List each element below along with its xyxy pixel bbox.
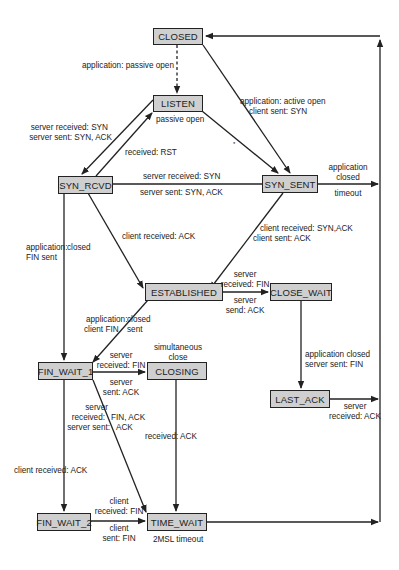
label-sent-ack: sent: ACK — [96, 388, 146, 398]
label-timeout: timeout — [322, 189, 374, 199]
state-syn-sent: SYN_SENT — [262, 175, 318, 193]
label-closed-2: closed — [67, 243, 91, 253]
label-send-ack: send: ACK — [220, 306, 270, 316]
label-server-sent: server sent: — [50, 423, 110, 433]
label-application: application — [322, 163, 374, 173]
label-client-2: client — [92, 524, 146, 534]
label-server-3: server — [325, 402, 385, 412]
label-client-1: client — [92, 497, 146, 507]
label-active-open: application: active open — [240, 97, 326, 107]
state-fin-wait-1: FIN_WAIT_1 — [38, 362, 93, 380]
label-asterisk: * — [233, 139, 235, 149]
label-application-2: application: — [26, 243, 67, 253]
state-closed: CLOSED — [153, 28, 203, 45]
label-simultaneous: simultaneous — [148, 343, 208, 353]
label-received-ack: received: ACK — [325, 412, 385, 422]
label-server-sent-syn-ack-2: server sent: SYN, ACK — [140, 188, 223, 198]
state-time-wait: TIME_WAIT — [147, 513, 207, 531]
label-client-received-ack-2: client received: ACK — [14, 466, 87, 476]
label-server-6: server — [60, 403, 108, 413]
label-ack: ACK — [116, 423, 133, 433]
label-application-closed: application closed — [305, 350, 370, 360]
label-received-rst: received: RST — [125, 148, 177, 158]
label-passive-open: passive open — [156, 115, 204, 125]
label-fin-sent: FIN sent — [26, 253, 57, 263]
label-sent: sent — [127, 325, 142, 335]
label-client-fin: client FIN — [84, 325, 119, 335]
state-close-wait: CLOSE_WAIT — [270, 283, 332, 301]
label-client-sent-ack: client sent: ACK — [253, 234, 311, 244]
label-application-3: application: — [86, 315, 127, 325]
label-server-4: server — [96, 351, 146, 361]
label-received-fin-2: received: FIN — [96, 361, 146, 371]
state-listen: LISTEN — [153, 95, 203, 112]
label-server-sent-syn-ack: server sent: SYN, ACK — [20, 133, 112, 143]
label-client-received-syn-ack: client received: SYN,ACK — [260, 224, 353, 234]
label-server-sent-fin: server sent: FIN — [305, 360, 363, 370]
state-closing: CLOSING — [147, 362, 207, 380]
label-client-sent-syn: client sent: SYN — [249, 107, 307, 117]
tcp-state-diagram: CLOSED LISTEN SYN_RCVD SYN_SENT ESTABLIS… — [0, 0, 399, 570]
label-server-5: server — [96, 378, 146, 388]
state-established: ESTABLISHED — [145, 283, 223, 301]
label-received-fin: received: FIN — [220, 280, 270, 290]
label-closed-listen: application: passive open — [82, 61, 174, 71]
label-2msl-timeout: 2MSL timeout — [153, 535, 203, 545]
label-closed: closed — [322, 173, 374, 183]
label-server-1: server — [220, 270, 270, 280]
label-client-received-ack: client received: ACK — [122, 232, 195, 242]
label-received-ack-2: received: ACK — [145, 432, 197, 442]
label-close: close — [148, 353, 208, 363]
label-server-received-syn: server received: SYN — [30, 123, 108, 133]
label-fin-ack: FIN, ACK — [111, 413, 145, 423]
label-closed-3: closed — [127, 315, 151, 325]
label-client-received-fin: received: FIN — [92, 507, 146, 517]
state-syn-rcvd: SYN_RCVD — [58, 176, 113, 194]
label-received: received: — [55, 413, 105, 423]
state-last-ack: LAST_ACK — [270, 390, 330, 408]
state-fin-wait-2: FIN_WAIT_2 — [37, 513, 91, 531]
label-server-received-syn-2: server received: SYN — [143, 172, 220, 182]
label-server-2: server — [220, 296, 270, 306]
label-client-sent-fin: sent: FIN — [92, 534, 146, 544]
